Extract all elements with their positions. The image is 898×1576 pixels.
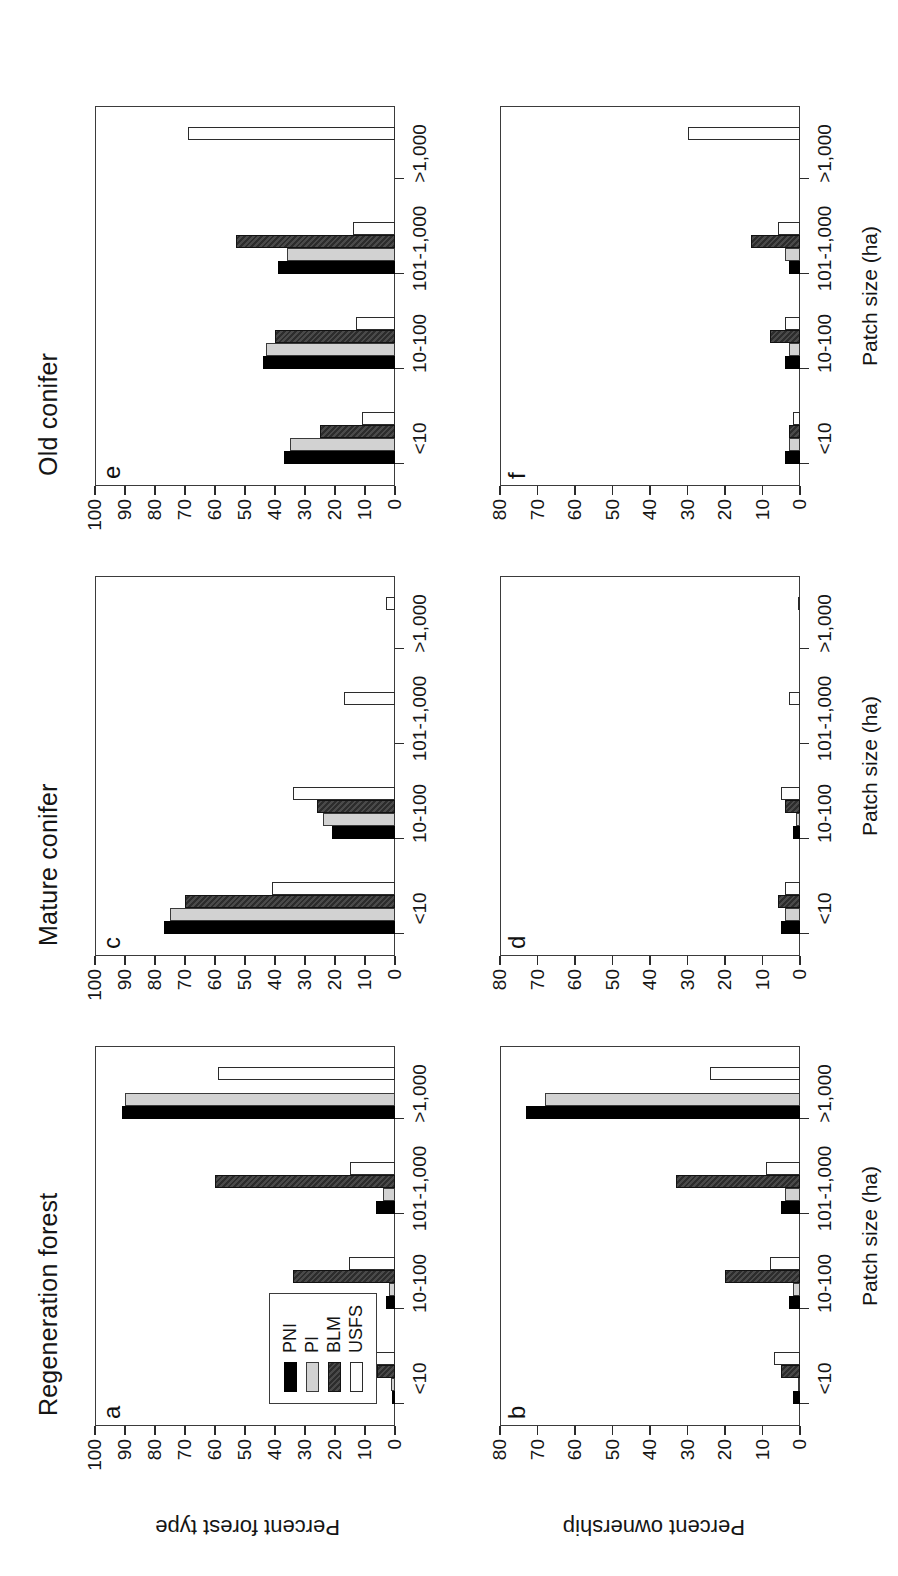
bar-usfs <box>353 223 395 236</box>
bar-usfs <box>793 413 801 426</box>
bar-pi <box>389 1284 395 1297</box>
x-axis-title: Patch size (ha) <box>858 106 882 486</box>
y-axis-tick-label: 40 <box>639 1439 661 1460</box>
bar-blm <box>275 331 395 344</box>
y-axis-tick-label: 90 <box>114 1439 136 1460</box>
legend-swatch-blm <box>328 1362 341 1392</box>
y-axis-tick-label: 30 <box>294 969 316 990</box>
x-axis-tick-label: <10 <box>814 422 836 454</box>
y-axis-tick-label: 0 <box>789 969 811 980</box>
x-axis-tick-label: <10 <box>814 1362 836 1394</box>
x-axis-tick <box>395 1213 404 1215</box>
bar-usfs <box>789 693 800 706</box>
x-axis-tick-label: 10-100 <box>409 314 431 373</box>
y-axis-tick <box>94 1426 96 1435</box>
y-axis-tick <box>124 956 126 965</box>
bar-blm <box>785 801 800 814</box>
x-axis-tick <box>395 178 404 180</box>
legend-swatch-pi <box>306 1362 319 1392</box>
y-axis-tick <box>124 486 126 495</box>
y-axis-tick <box>364 486 366 495</box>
y-axis-tick-label: 10 <box>354 499 376 520</box>
y-axis-tick <box>364 1426 366 1435</box>
bar-usfs <box>766 1163 800 1176</box>
x-axis-tick <box>800 933 809 935</box>
bar-pi <box>323 814 395 827</box>
bar-pi <box>290 439 395 452</box>
y-axis-tick <box>499 486 501 495</box>
y-axis-tick-label: 70 <box>174 969 196 990</box>
y-axis-tick-label: 20 <box>324 1439 346 1460</box>
bar-blm <box>676 1176 800 1189</box>
y-axis-tick <box>274 956 276 965</box>
bar-blm <box>293 1271 395 1284</box>
panel-letter-c: c <box>98 937 126 949</box>
y-axis-tick-label: 0 <box>384 499 406 510</box>
bar-usfs <box>349 1258 396 1271</box>
y-axis-tick <box>762 956 764 965</box>
y-axis-tick <box>334 486 336 495</box>
y-axis-tick-label: 70 <box>527 499 549 520</box>
bar-pi <box>796 814 800 827</box>
y-axis-tick-label: 80 <box>144 969 166 990</box>
x-axis-tick <box>800 838 809 840</box>
y-axis-tick <box>124 1426 126 1435</box>
bar-pni <box>122 1107 395 1120</box>
bar-blm <box>781 1366 800 1379</box>
panel-b: b01020304050607080<1010-100101-1,000>1,0… <box>500 1046 800 1426</box>
y-axis-tick-label: 10 <box>752 969 774 990</box>
x-axis-tick-label: >1,000 <box>814 594 836 653</box>
x-axis-tick <box>800 1213 809 1215</box>
y-axis-tick <box>724 486 726 495</box>
plot-area: 01020304050607080<1010-100101-1,000>1,00… <box>500 1046 800 1426</box>
y-axis-tick-label: 0 <box>789 499 811 510</box>
x-axis-tick-label: 101-1,000 <box>814 206 836 292</box>
y-axis-title-row-1: Percent forest type <box>155 1514 340 1540</box>
y-axis-tick-label: 50 <box>602 1439 624 1460</box>
y-axis-tick-label: 30 <box>677 1439 699 1460</box>
x-axis-tick <box>395 1308 404 1310</box>
x-axis-tick-label: <10 <box>814 892 836 924</box>
y-axis-tick-label: 90 <box>114 499 136 520</box>
bar-blm <box>320 426 395 439</box>
y-axis-tick <box>649 486 651 495</box>
y-axis-tick-label: 20 <box>714 499 736 520</box>
bar-pi <box>793 1284 801 1297</box>
y-axis-tick <box>244 486 246 495</box>
y-axis-tick <box>612 486 614 495</box>
panel-a: a0102030405060708090100<1010-100101-1,00… <box>95 1046 395 1426</box>
y-axis-tick <box>214 1426 216 1435</box>
bar-usfs <box>386 598 395 611</box>
bar-pni <box>376 1202 396 1215</box>
bar-blm <box>789 426 800 439</box>
x-axis-tick <box>800 273 809 275</box>
panel-d: d01020304050607080<1010-100101-1,000>1,0… <box>500 576 800 956</box>
y-axis-tick-label: 80 <box>489 1439 511 1460</box>
y-axis-tick <box>214 486 216 495</box>
bar-pi <box>785 1189 800 1202</box>
y-axis-tick-label: 50 <box>234 969 256 990</box>
y-axis-tick-label: 60 <box>564 969 586 990</box>
x-axis-tick-label: >1,000 <box>409 594 431 653</box>
y-axis-tick <box>799 486 801 495</box>
y-axis-tick-label: 100 <box>84 969 106 1001</box>
x-axis-tick-label: >1,000 <box>814 1064 836 1123</box>
x-axis-tick-label: 101-1,000 <box>409 676 431 762</box>
bar-pni <box>332 827 395 840</box>
plot-area: 0102030405060708090100<1010-100101-1,000… <box>95 576 395 956</box>
y-axis-tick-label: 30 <box>294 499 316 520</box>
panel-letter-f: f <box>503 472 531 479</box>
bar-usfs <box>688 128 801 141</box>
x-axis-tick <box>395 1403 404 1405</box>
y-axis-tick <box>724 956 726 965</box>
x-axis-tick <box>800 463 809 465</box>
x-axis-tick-label: >1,000 <box>409 1064 431 1123</box>
y-axis-tick <box>537 956 539 965</box>
y-axis-tick <box>334 956 336 965</box>
x-axis-tick-label: 10-100 <box>814 1254 836 1313</box>
y-axis-tick <box>574 1426 576 1435</box>
bar-usfs <box>785 318 800 331</box>
bar-blm <box>185 896 395 909</box>
legend-label: PNI <box>281 1323 299 1353</box>
y-axis-tick-label: 60 <box>204 1439 226 1460</box>
